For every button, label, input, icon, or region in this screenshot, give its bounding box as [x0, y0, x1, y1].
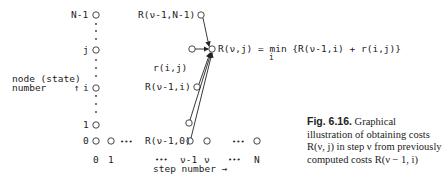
row-label-j: j — [83, 45, 89, 55]
row-label-i: i — [83, 83, 89, 93]
node-col1-0 — [108, 138, 114, 144]
label-top-node: R(ν-1,N-1) — [138, 10, 195, 20]
figure-label: Fig. 6.16. — [307, 115, 352, 127]
node-col0-N-1 — [93, 12, 99, 18]
node-col0-1 — [93, 122, 99, 128]
col-label-dots-2: ••• — [228, 155, 241, 165]
row-label-1: 1 — [83, 120, 89, 130]
col-label-0: 0 — [93, 155, 99, 165]
col-label-1: 1 — [108, 155, 114, 165]
figure-caption: Fig. 6.16. Graphical illustration of obt… — [307, 115, 443, 166]
label-mid-node: R(ν-1,i) — [145, 82, 191, 92]
row-label-0: 0 — [83, 136, 89, 146]
label-edge: r(i,j) — [153, 63, 187, 73]
node-col0-0 — [93, 138, 99, 144]
dots-bottom: ••• — [120, 137, 133, 147]
equation-subscript: i — [269, 53, 274, 63]
dots-bottom-2: ••• — [232, 137, 245, 147]
row-label-N-1: N-1 — [71, 10, 88, 20]
node-col0-i — [93, 85, 99, 91]
node-col0-j — [93, 47, 99, 53]
label-bottom-node: R(ν-1,0) — [145, 136, 191, 146]
row-axis-label-2: number — [12, 83, 46, 93]
up-arrow-icon: ↑ — [74, 83, 80, 93]
equation: R(ν,j) = min {R(ν-1,i) + r(i,j)} — [218, 44, 401, 54]
col-label-N: N — [254, 155, 260, 165]
col-axis-label: step number → — [153, 164, 227, 174]
